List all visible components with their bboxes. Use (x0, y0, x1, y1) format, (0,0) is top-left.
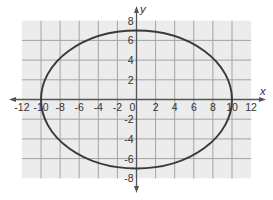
x-tick-label: -6 (75, 101, 84, 113)
x-tick-label: -8 (55, 101, 64, 113)
x-tick-label: 6 (191, 101, 197, 113)
y-axis-label: y (139, 3, 147, 15)
y-tick-label: 4 (128, 54, 134, 66)
x-tick-label: 2 (153, 101, 159, 113)
x-axis-label: x (259, 85, 267, 97)
y-axis-arrow-down-icon (134, 186, 139, 193)
x-tick-label: -2 (113, 101, 122, 113)
coordinate-plane: -12-10-8-6-4-2024681012 8642-2-4-6-8 x y (0, 0, 273, 200)
ellipse-graph: -12-10-8-6-4-2024681012 8642-2-4-6-8 x y (0, 0, 273, 200)
y-tick-label: 2 (128, 74, 134, 86)
x-tick-label: 4 (172, 101, 178, 113)
y-tick-label: -2 (124, 113, 133, 125)
y-axis-arrow-up-icon (134, 6, 139, 13)
x-axis-arrow-right-icon (259, 97, 266, 102)
y-tick-label: 6 (128, 34, 134, 46)
x-tick-label: 0 (130, 101, 136, 113)
x-tick-label: -12 (14, 101, 29, 113)
y-tick-label: 8 (128, 15, 134, 27)
x-tick-label: 12 (245, 101, 257, 113)
x-tick-label: 8 (210, 101, 216, 113)
x-tick-label: -10 (33, 101, 48, 113)
y-tick-label: -6 (124, 153, 133, 165)
x-tick-label: -4 (94, 101, 103, 113)
x-tick-label: 10 (226, 101, 238, 113)
y-tick-label: -8 (124, 172, 133, 184)
y-tick-label: -4 (124, 133, 133, 145)
